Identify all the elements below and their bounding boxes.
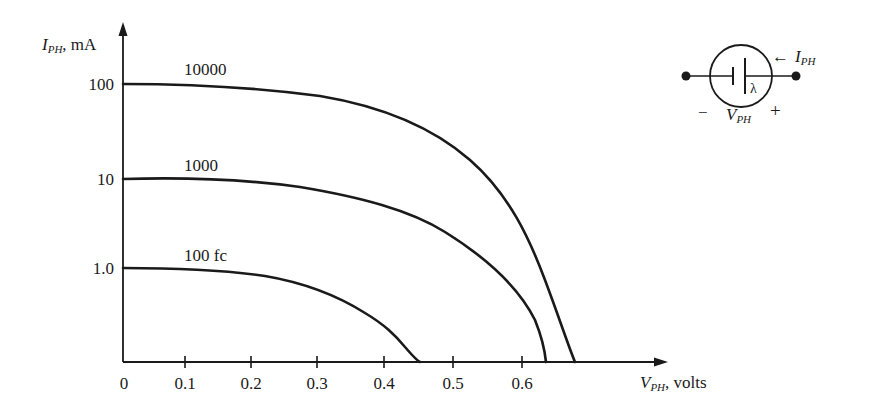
minus-sign: − — [698, 103, 708, 122]
x-tick-label: 0.4 — [373, 374, 395, 393]
plus-sign: + — [770, 100, 781, 121]
voltage-label: VPH — [726, 105, 752, 125]
curve-label-100fc: 100 fc — [184, 246, 227, 265]
x-tick-label: 0.1 — [174, 374, 195, 393]
curve-label-10000: 10000 — [184, 60, 227, 79]
x-tick-label: 0.5 — [442, 374, 463, 393]
current-label: ←IPH — [772, 47, 816, 67]
x-tick-label: 0.3 — [306, 374, 327, 393]
x-tick-label: 0.6 — [511, 374, 532, 393]
y-tick-labels: 100 10 1.0 — [89, 75, 115, 278]
y-tick-label: 100 — [89, 75, 115, 94]
curve-label-1000: 1000 — [184, 156, 218, 175]
x-tick-labels: 0 0.1 0.2 0.3 0.4 0.5 0.6 — [120, 374, 533, 393]
photodiode-symbol: λ ←IPH − VPH + — [682, 45, 817, 125]
photodiode-iv-chart: 0 0.1 0.2 0.3 0.4 0.5 0.6 100 10 1.0 IPH… — [0, 0, 874, 415]
x-tick-label: 0.2 — [240, 374, 261, 393]
x-axis-arrow-icon — [654, 358, 668, 367]
y-axis-arrow-icon — [119, 22, 128, 36]
x-tick-label: 0 — [120, 374, 129, 393]
y-tick-label: 1.0 — [93, 259, 114, 278]
y-axis-title: IPH, mA — [41, 35, 97, 55]
lambda-symbol: λ — [750, 81, 757, 96]
curve-10000-fc — [123, 84, 575, 362]
curve-100-fc — [123, 268, 420, 362]
x-axis-title: VPH, volts — [640, 373, 707, 393]
y-tick-label: 10 — [97, 170, 114, 189]
